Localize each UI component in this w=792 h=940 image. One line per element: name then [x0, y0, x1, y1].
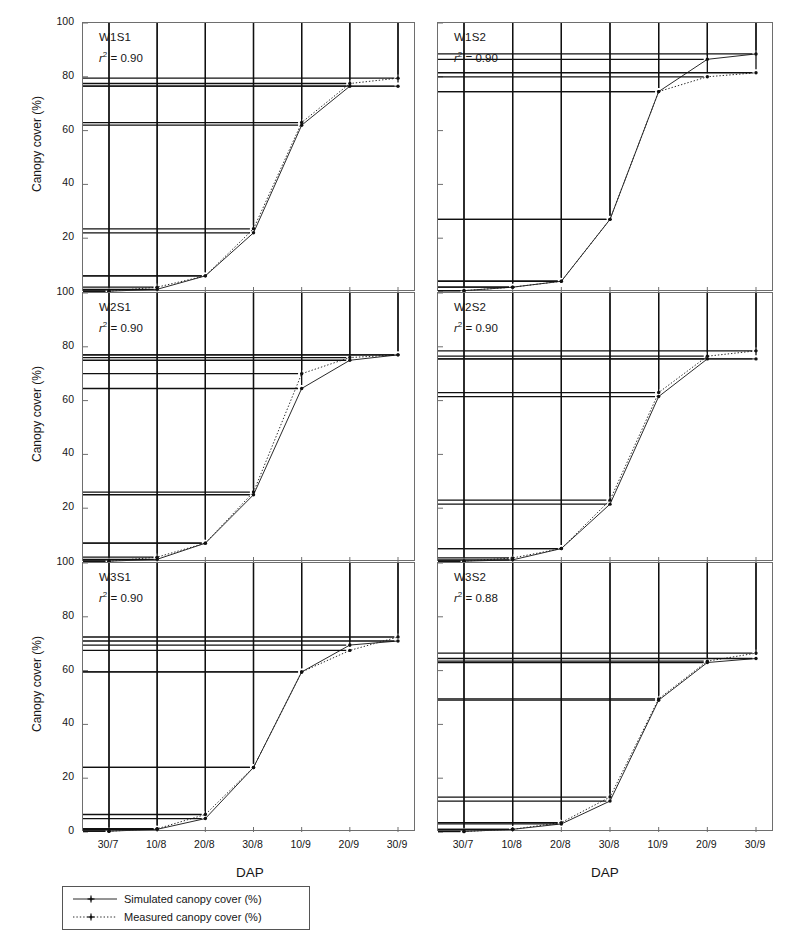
panel-r2-w2s2: r2 = 0.90 [454, 322, 498, 334]
panel-title-w1s2: W1S2 [454, 31, 486, 43]
panel-w2s2: W2S2r2 = 0.90 [437, 292, 773, 561]
x-tick-label: 30/8 [585, 838, 633, 850]
panel-r2-w2s1: r2 = 0.90 [99, 322, 143, 334]
panel-w1s2: W1S2r2 = 0.90 [437, 22, 773, 291]
panel-title-w3s1: W3S1 [99, 571, 131, 583]
x-tick-label: 20/8 [536, 838, 584, 850]
panel-w2s1: W2S1r2 = 0.90 [82, 292, 415, 561]
y-tick-label: 20 [30, 500, 74, 512]
y-tick-label: 80 [30, 339, 74, 351]
legend-label-measured: Measured canopy cover (%) [124, 911, 262, 923]
panel-w1s1: W1S1r2 = 0.90 [82, 22, 415, 291]
panel-r2-w1s2: r2 = 0.90 [454, 52, 498, 64]
y-tick-label: 60 [30, 663, 74, 675]
panel-r2-w3s2: r2 = 0.88 [454, 592, 498, 604]
x-tick-label: 30/7 [439, 838, 487, 850]
y-tick-label: 0 [30, 824, 74, 836]
panel-r2-w3s1: r2 = 0.90 [99, 592, 143, 604]
x-tick-label: 20/9 [682, 838, 730, 850]
x-tick-label: 30/9 [731, 838, 779, 850]
legend-swatch-simulated-line [73, 893, 117, 905]
y-tick-label: 40 [30, 716, 74, 728]
y-tick-label: 20 [30, 770, 74, 782]
legend-swatch-measured-line [73, 911, 117, 923]
panel-title-w1s1: W1S1 [99, 31, 131, 43]
y-tick-label: 100 [30, 555, 74, 567]
x-tick-label: 30/7 [84, 838, 132, 850]
x-tick-label: 30/9 [373, 838, 421, 850]
legend: Simulated canopy cover (%) Measured cano… [62, 886, 310, 930]
x-tick-label: 20/8 [180, 838, 228, 850]
panel-title-w2s2: W2S2 [454, 301, 486, 313]
y-tick-label: 100 [30, 15, 74, 27]
y-tick-label: 60 [30, 123, 74, 135]
y-tick-label: 100 [30, 285, 74, 297]
x-tick-label: 30/8 [229, 838, 277, 850]
y-tick-label: 60 [30, 393, 74, 405]
x-tick-label: 20/9 [325, 838, 373, 850]
x-tick-label: 10/8 [488, 838, 536, 850]
panel-title-w2s1: W2S1 [99, 301, 131, 313]
panel-r2-w1s1: r2 = 0.90 [99, 52, 143, 64]
x-tick-label: 10/9 [277, 838, 325, 850]
panel-title-w3s2: W3S2 [454, 571, 486, 583]
panel-w3s2: W3S2r2 = 0.88 [437, 562, 773, 831]
y-tick-label: 40 [30, 176, 74, 188]
y-tick-label: 80 [30, 609, 74, 621]
panel-grid: W1S1r2 = 0.90W1S2r2 = 0.90W2S1r2 = 0.90W… [0, 0, 792, 940]
x-tick-label: 10/9 [634, 838, 682, 850]
legend-label-simulated: Simulated canopy cover (%) [124, 893, 262, 905]
legend-item-simulated: Simulated canopy cover (%) [73, 893, 262, 905]
canopy-cover-figure: Canopy cover (%) Canopy cover (%) Canopy… [0, 0, 792, 940]
y-tick-label: 40 [30, 446, 74, 458]
legend-item-measured: Measured canopy cover (%) [73, 911, 262, 923]
x-tick-label: 10/8 [132, 838, 180, 850]
panel-w3s1: W3S1r2 = 0.90 [82, 562, 415, 831]
y-tick-label: 80 [30, 69, 74, 81]
y-tick-label: 20 [30, 230, 74, 242]
